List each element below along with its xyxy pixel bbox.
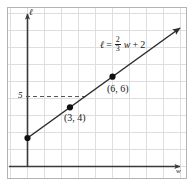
equation-numerator: 2 [115,36,121,44]
equation-lhs: ℓ [100,40,104,50]
equation-equals: = [106,40,112,50]
data-point-intercept [24,135,30,141]
equation-annotation: ℓ = 2 3 w + 2 [100,36,145,53]
equation-denominator: 3 [115,44,121,53]
y-tick-label-5: 5 [18,91,23,100]
equation-variable: w [124,40,131,50]
equation-constant: 2 [140,40,145,50]
equation-fraction: 2 3 [115,36,121,53]
data-point-6-6 [109,74,115,80]
equation-plus: + [132,40,138,50]
y-axis-label: ℓ [29,8,33,17]
data-point-3-4 [67,104,73,110]
x-axis-label: w [176,168,181,175]
plot-border [8,8,187,179]
point-label-6-6: (6, 6) [107,84,129,94]
line-graph-figure: ℓ w 5 (3, 4) (6, 6) ℓ = 2 3 w + 2 [0,0,194,186]
point-label-3-4: (3, 4) [64,113,86,123]
plot-canvas [0,0,194,186]
